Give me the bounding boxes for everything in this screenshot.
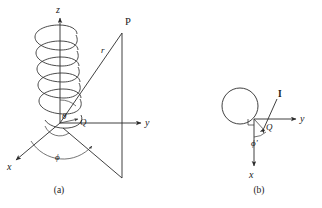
z-axis-label-a: z <box>55 4 60 15</box>
panel-b: y x I Q ϕ' (b) <box>222 88 305 196</box>
radius-line-to-q-b <box>254 119 265 131</box>
current-loop-circle <box>222 88 258 124</box>
source-point-q-label-a: Q <box>80 117 87 127</box>
theta-angle-label: θ <box>62 111 67 121</box>
panel-b-caption: (b) <box>253 185 264 196</box>
phi-angle-arc-a <box>31 141 92 159</box>
phi-angle-label-a: ϕ <box>55 152 60 162</box>
y-axis-label-a: y <box>144 117 150 128</box>
panel-a-caption: (a) <box>54 185 65 196</box>
x-axis-label-a: x <box>6 161 12 172</box>
figure-root: z y x r P <box>0 0 322 208</box>
phi-prime-arc-b <box>254 132 266 137</box>
r-vector-line <box>60 33 122 123</box>
y-axis-label-b: y <box>299 113 305 124</box>
point-p-label: P <box>125 16 131 27</box>
physics-diagram: z y x r P <box>0 0 322 208</box>
helix-coil <box>35 25 82 128</box>
phi-prime-label-b: ϕ' <box>251 138 259 148</box>
current-label-i: I <box>278 89 282 99</box>
x-axis-line-a <box>16 123 60 160</box>
projection-line-a <box>63 128 122 178</box>
source-point-q-label-b: Q <box>266 122 273 132</box>
r-label: r <box>101 45 105 55</box>
panel-a: z y x r P <box>6 4 150 196</box>
x-axis-label-b: x <box>248 169 254 180</box>
